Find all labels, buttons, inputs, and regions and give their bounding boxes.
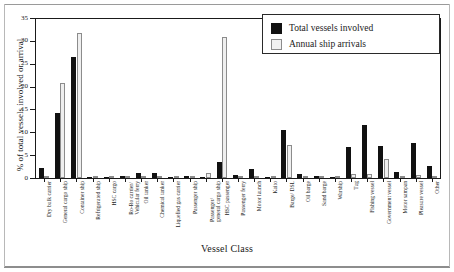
- figure-border-top: [4, 4, 450, 5]
- bar-total-vessels-involved: [55, 113, 60, 178]
- x-axis-tick-label: Fishing vessel: [369, 181, 375, 213]
- bar-total-vessels-involved: [281, 130, 286, 178]
- figure: % of total vessels involved or arrival 0…: [0, 0, 454, 272]
- bar-total-vessels-involved: [346, 147, 351, 178]
- chart-legend: Total vessels involvedAnnual ship arriva…: [262, 14, 440, 54]
- legend-item: Annual ship arrivals: [271, 36, 366, 52]
- legend-label: Annual ship arrivals: [289, 39, 366, 49]
- bar-annual-ship-arrivals: [77, 33, 82, 178]
- legend-label: Total vessels involved: [289, 23, 373, 33]
- x-axis-tick-label: Dry bulk carrier: [46, 181, 52, 217]
- x-axis-title: Vessel Class: [0, 243, 454, 254]
- x-axis-tick-label: Liquefied gas carrier: [175, 181, 181, 228]
- figure-border-bottom: [4, 266, 450, 268]
- x-axis-tick-label: Government vessel: [386, 181, 392, 224]
- x-axis-tick-label: HSC cargo: [111, 181, 117, 206]
- x-axis-tick-label: Sand barge: [321, 181, 327, 206]
- x-axis-tick-label: Ro-Ro carrier/Vehicular ferry: [129, 181, 140, 215]
- y-axis-tick: [30, 132, 35, 133]
- x-axis-tick-label: Motor sampan: [402, 181, 408, 213]
- x-axis-tick-label: Warship: [337, 181, 343, 200]
- x-axis-tick-label: Kaito: [272, 181, 278, 193]
- x-axis-tick-labels: Dry bulk carrierGeneral cargo shipContai…: [36, 181, 440, 241]
- x-axis-tick-label: Passenger ferry: [240, 181, 246, 216]
- x-axis-tick-label: Oil barge: [305, 181, 311, 202]
- bar-annual-ship-arrivals: [287, 145, 292, 178]
- bar-annual-ship-arrivals: [222, 37, 227, 178]
- y-axis-tick: [30, 64, 35, 65]
- bar-total-vessels-involved: [378, 146, 383, 178]
- y-axis-tick-label: 15: [21, 106, 28, 113]
- x-axis-tick-label: Passenger/general cargo ship: [210, 181, 221, 222]
- figure-border-right: [449, 4, 450, 267]
- y-axis-tick-label: 0: [25, 175, 29, 182]
- y-axis-tick: [30, 87, 35, 88]
- y-axis-tick-label: 20: [21, 83, 28, 90]
- x-axis-tick-label: Refrigerated ship: [95, 181, 101, 220]
- bar-total-vessels-involved: [411, 143, 416, 178]
- y-axis-tick-label: 10: [21, 129, 28, 136]
- x-axis-tick-label: Container ship: [79, 181, 85, 214]
- y-axis-tick-label: 35: [21, 15, 28, 22]
- y-axis-tick: [30, 155, 35, 156]
- bar-total-vessels-involved: [362, 125, 367, 178]
- bar-total-vessels-involved: [249, 169, 254, 178]
- bar-total-vessels-involved: [39, 168, 44, 179]
- bar-total-vessels-involved: [217, 162, 222, 178]
- x-axis-tick-label: HSC passenger: [224, 181, 230, 215]
- y-axis-tick-label: 5: [25, 152, 29, 159]
- x-axis-tick-label: Passenger ship: [192, 181, 198, 214]
- plot-border-right: [440, 18, 441, 179]
- x-axis-tick-label: Other: [434, 181, 440, 194]
- x-axis-tick-label: Barge/ DSL: [289, 181, 295, 208]
- y-axis-tick-label: 30: [21, 37, 28, 44]
- bar-annual-ship-arrivals: [60, 83, 65, 178]
- y-axis-tick: [30, 109, 35, 110]
- bar-total-vessels-involved: [71, 57, 76, 178]
- legend-swatch-light: [271, 39, 282, 50]
- bar-annual-ship-arrivals: [384, 159, 389, 178]
- y-axis-tick: [30, 18, 35, 19]
- x-axis-tick-label: Motor launch: [256, 181, 262, 211]
- y-axis-tick: [30, 178, 35, 179]
- y-axis-tick-label: 25: [21, 60, 28, 67]
- x-axis-tick-label: Pleasure vessel: [418, 181, 424, 215]
- y-axis-tick-labels: 05101520253035: [8, 0, 28, 272]
- x-axis-tick-label: General cargo ship: [62, 181, 68, 223]
- x-axis-tick-label: Oil tanker: [143, 181, 149, 204]
- x-axis-tick-label: Tug: [353, 181, 359, 190]
- y-axis-tick: [30, 41, 35, 42]
- bar-total-vessels-involved: [427, 166, 432, 178]
- legend-swatch-dark: [271, 23, 282, 34]
- x-axis-tick-label: Chemical tanker: [159, 181, 165, 218]
- legend-item: Total vessels involved: [271, 20, 373, 36]
